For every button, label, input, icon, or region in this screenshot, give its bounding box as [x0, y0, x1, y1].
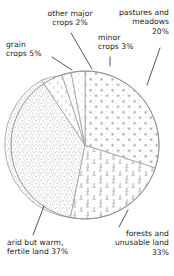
- pie-label-other-major-crops: other major crops 2%: [37, 9, 103, 28]
- pie-label-minor-crops: minor crops 3%: [98, 33, 144, 52]
- pie-label-arid-but-warm-fertile-land: arid but warm, fertile land 37%: [7, 238, 89, 257]
- pie-label-pastures-and-meadows: pastures and meadows 20%: [99, 8, 169, 36]
- leader-line-forests: [119, 210, 128, 227]
- leader-line-pastures: [147, 48, 160, 85]
- leader-line-other-major-crops: [71, 33, 92, 69]
- pie-label-forests-and-unusable-land: forests and unusable land 33%: [95, 229, 169, 257]
- pie-label-grain-crops: grain crops 5%: [6, 40, 54, 59]
- leader-line-grain-crops: [52, 57, 72, 70]
- leader-line-arid: [33, 206, 44, 235]
- pie-slices: [5, 71, 159, 219]
